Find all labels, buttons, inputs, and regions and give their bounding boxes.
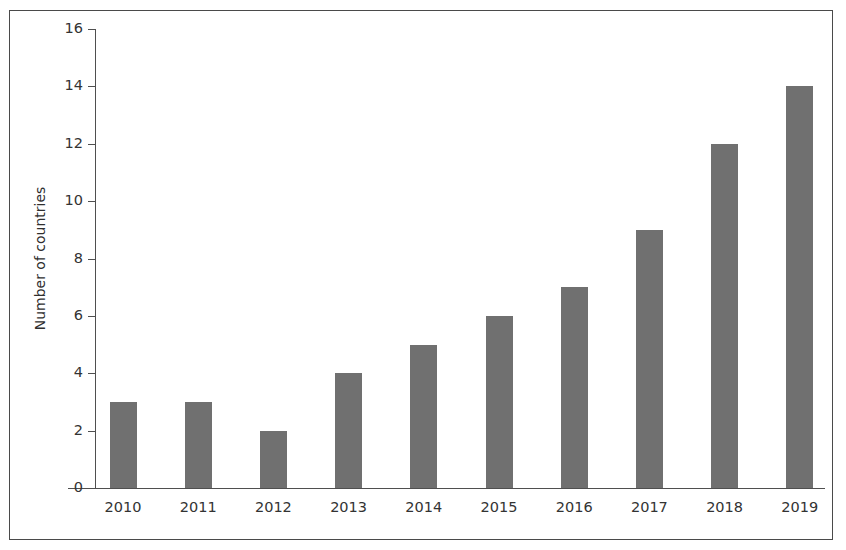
- bar: [185, 402, 212, 488]
- bar: [561, 287, 588, 488]
- bar: [711, 144, 738, 488]
- bar: [335, 373, 362, 488]
- y-axis-tick: [88, 488, 95, 489]
- x-axis-tick-label: 2018: [690, 497, 760, 517]
- x-axis-tick-label: 2013: [314, 497, 384, 517]
- x-axis-tick-label: 2012: [238, 497, 308, 517]
- bar: [410, 345, 437, 488]
- figure: 0246810121416 Number of countries 201020…: [0, 0, 846, 550]
- x-axis-tick-label: 2011: [163, 497, 233, 517]
- bar: [636, 230, 663, 488]
- bar: [260, 431, 287, 488]
- x-axis-tick-label: 2010: [88, 497, 158, 517]
- bar: [786, 86, 813, 488]
- x-axis-tick-label: 2014: [389, 497, 459, 517]
- x-axis-tick-label: 2019: [765, 497, 835, 517]
- bar: [486, 316, 513, 488]
- x-axis-tick-label: 2017: [614, 497, 684, 517]
- x-axis-tick-labels: 2010201120122013201420152016201720182019: [0, 497, 846, 525]
- x-axis-tick-label: 2016: [539, 497, 609, 517]
- bar: [110, 402, 137, 488]
- bar-series: [0, 29, 846, 488]
- x-axis-line: [68, 488, 825, 489]
- x-axis-tick-label: 2015: [464, 497, 534, 517]
